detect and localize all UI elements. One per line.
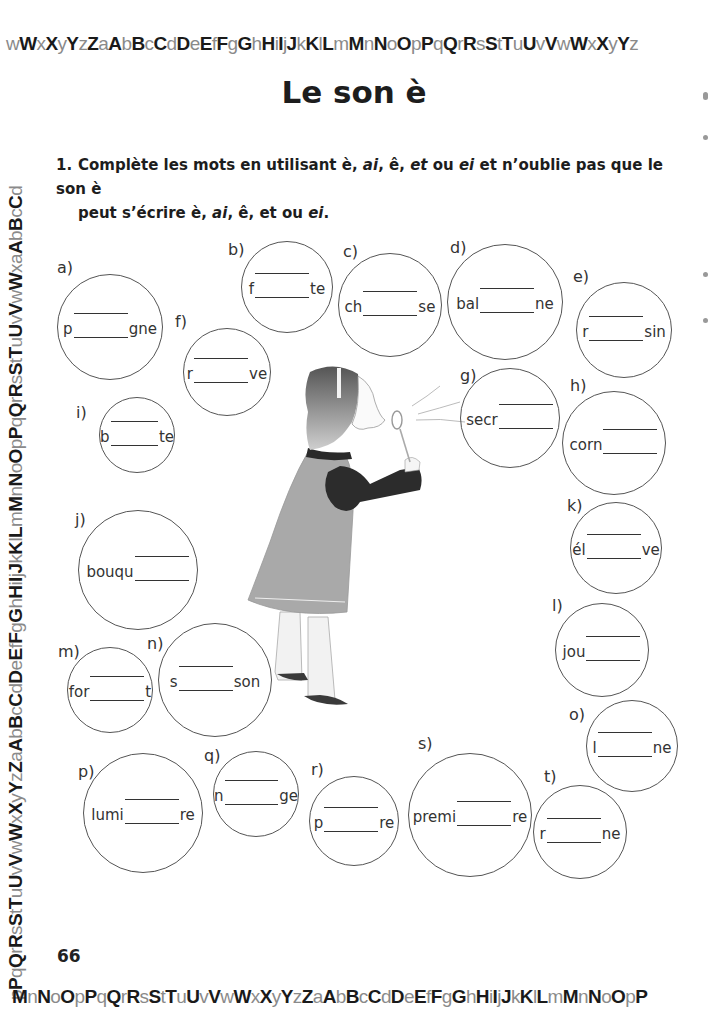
bubble-label-h: h) — [570, 376, 586, 395]
word-prefix: él — [572, 541, 585, 559]
word-suffix: ne — [535, 295, 554, 313]
fill-in-blank[interactable] — [587, 544, 641, 559]
fill-in-blank[interactable] — [135, 566, 189, 581]
bubble-g: secr — [460, 368, 560, 468]
fill-in-blank[interactable] — [74, 323, 128, 338]
word-prefix: r — [582, 323, 588, 341]
word-prefix: f — [249, 280, 254, 298]
fill-in-blank[interactable] — [603, 439, 657, 454]
word-prefix: bal — [456, 295, 479, 313]
bubble-r: pre — [309, 776, 399, 866]
page-edge-mark — [703, 318, 708, 323]
bubble-label-q: q) — [204, 746, 220, 765]
page-number: 66 — [57, 946, 81, 966]
word-prefix: ch — [345, 298, 363, 316]
word-prefix: secr — [466, 411, 497, 429]
word-with-blank: fte — [242, 280, 332, 298]
bubble-e: rsin — [576, 282, 672, 378]
word-with-blank: premire — [409, 808, 531, 826]
fill-in-blank[interactable] — [547, 828, 601, 843]
fill-in-blank[interactable] — [324, 817, 378, 832]
word-with-blank: jou — [556, 643, 648, 661]
word-prefix: bouqu — [86, 563, 133, 581]
bubble-n: sson — [158, 623, 272, 737]
page-title: Le son è — [0, 74, 708, 110]
fill-in-blank[interactable] — [457, 811, 511, 826]
word-suffix: ne — [653, 739, 672, 757]
word-with-blank: rsin — [577, 323, 671, 341]
word-with-blank: fort — [68, 683, 152, 701]
word-with-blank: secr — [461, 411, 559, 429]
fill-in-blank[interactable] — [499, 414, 553, 429]
fill-in-blank[interactable] — [111, 431, 158, 446]
word-suffix: te — [310, 280, 325, 298]
bubble-label-a: a) — [57, 258, 73, 277]
bubble-b: fte — [241, 241, 333, 333]
fill-in-blank[interactable] — [586, 646, 640, 661]
word-with-blank: lumire — [84, 806, 202, 824]
bubble-q: nge — [213, 751, 299, 837]
word-with-blank: balne — [448, 295, 562, 313]
fill-in-blank[interactable] — [179, 676, 233, 691]
instruction-line-2: peut s’écrire è, ai, ê, et ou ei. — [56, 201, 696, 225]
fill-in-blank[interactable] — [363, 301, 417, 316]
bubble-f: rve — [183, 328, 271, 416]
word-prefix: s — [170, 673, 178, 691]
word-with-blank: pre — [310, 814, 398, 832]
word-prefix: p — [314, 814, 324, 832]
word-with-blank: pgne — [58, 320, 162, 338]
bubble-h: corn — [562, 391, 666, 495]
bubble-label-b: b) — [228, 240, 244, 259]
word-prefix: r — [187, 365, 193, 383]
word-with-blank: élve — [571, 541, 661, 559]
bubble-label-l: l) — [552, 596, 563, 615]
bubble-label-i: i) — [76, 403, 87, 422]
word-suffix: re — [512, 808, 527, 826]
bubble-p: lumire — [83, 753, 203, 873]
bubble-label-m: m) — [58, 642, 80, 661]
alphabet-border-left: pPqQrRsStTuUvVwWxXyYzZaAbBcCdDeEfFgGhHiI… — [5, 55, 27, 1000]
word-with-blank: bouqu — [79, 563, 197, 581]
word-prefix: lumi — [91, 806, 123, 824]
word-suffix: ne — [602, 825, 621, 843]
word-prefix: jou — [563, 643, 586, 661]
fill-in-blank[interactable] — [589, 326, 643, 341]
word-prefix: l — [593, 739, 597, 757]
word-with-blank: bte — [100, 428, 174, 446]
word-suffix: te — [159, 428, 174, 446]
bubble-label-c: c) — [343, 242, 358, 261]
bubble-label-d: d) — [450, 238, 466, 257]
bubble-m: fort — [67, 647, 153, 733]
word-suffix: se — [418, 298, 435, 316]
bubble-label-o: o) — [569, 705, 585, 724]
word-with-blank: chse — [339, 298, 441, 316]
instruction-line-1: Complète les mots en utilisant è, ai, ê,… — [56, 156, 663, 198]
fill-in-blank[interactable] — [125, 809, 179, 824]
exercise-number: 1. — [56, 153, 78, 177]
fill-in-blank[interactable] — [598, 742, 652, 757]
word-suffix: ve — [642, 541, 660, 559]
fill-in-blank[interactable] — [90, 686, 144, 701]
word-prefix: n — [214, 787, 224, 805]
fill-in-blank[interactable] — [480, 298, 534, 313]
alphabet-border-bottom: MnNoOpPqQrRsStTuUvVwWxXyYzZaAbBcCdDeEfFg… — [12, 986, 647, 1008]
word-prefix: premi — [413, 808, 456, 826]
word-with-blank: nge — [214, 787, 298, 805]
word-prefix: corn — [570, 436, 603, 454]
page-edge-mark — [703, 135, 708, 140]
bubble-label-e: e) — [573, 267, 589, 286]
fill-in-blank[interactable] — [255, 283, 309, 298]
fill-in-blank[interactable] — [225, 790, 279, 805]
word-with-blank: lne — [587, 739, 677, 757]
page-edge-mark — [703, 272, 708, 277]
word-suffix: ve — [249, 365, 267, 383]
bubble-label-n: n) — [147, 634, 163, 653]
word-prefix: p — [63, 320, 73, 338]
bubble-label-f: f) — [175, 312, 187, 331]
word-suffix: gne — [129, 320, 157, 338]
word-suffix: ge — [279, 787, 298, 805]
word-with-blank: rne — [534, 825, 626, 843]
word-suffix: son — [234, 673, 261, 691]
fill-in-blank[interactable] — [194, 368, 248, 383]
bubble-l: jou — [555, 603, 649, 697]
